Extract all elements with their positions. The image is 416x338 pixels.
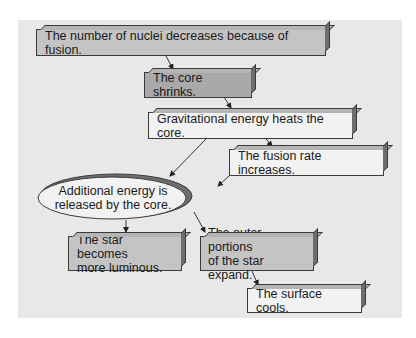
arrow-n5-n7 xyxy=(194,212,205,232)
node-label-line2: of the star expand. xyxy=(208,254,306,282)
node-surface-cools: The surface cools. xyxy=(247,288,362,313)
node-label-line1: The star becomes xyxy=(77,233,173,261)
node-label: The fusion rate increases. xyxy=(238,149,375,177)
node-outer-portions-expand: The outer portions of the star expand. xyxy=(200,236,314,271)
ellipse-label-line1: Additional energy is xyxy=(40,184,186,198)
node-label: The core shrinks. xyxy=(153,71,243,99)
node-label: Gravitational energy heats the core. xyxy=(157,112,344,140)
ellipse-label: Additional energy is released by the cor… xyxy=(40,184,186,212)
node-nuclei-decrease: The number of nuclei decreases because o… xyxy=(36,29,326,56)
arrow-n3-n5 xyxy=(170,139,206,176)
node-core-shrinks: The core shrinks. xyxy=(144,72,252,98)
node-label: The surface cools. xyxy=(256,287,353,315)
node-fusion-rate: The fusion rate increases. xyxy=(229,149,384,176)
ellipse-label-line2: released by the core. xyxy=(40,198,186,212)
node-label-line1: The outer portions xyxy=(208,226,306,254)
node-label-line2: more luminous. xyxy=(77,261,173,275)
node-gravitational-energy: Gravitational energy heats the core. xyxy=(148,112,353,139)
arrow-n4-n5 xyxy=(218,176,229,186)
node-star-luminous: The star becomes more luminous. xyxy=(68,236,182,271)
node-label: The number of nuclei decreases because o… xyxy=(45,29,317,57)
